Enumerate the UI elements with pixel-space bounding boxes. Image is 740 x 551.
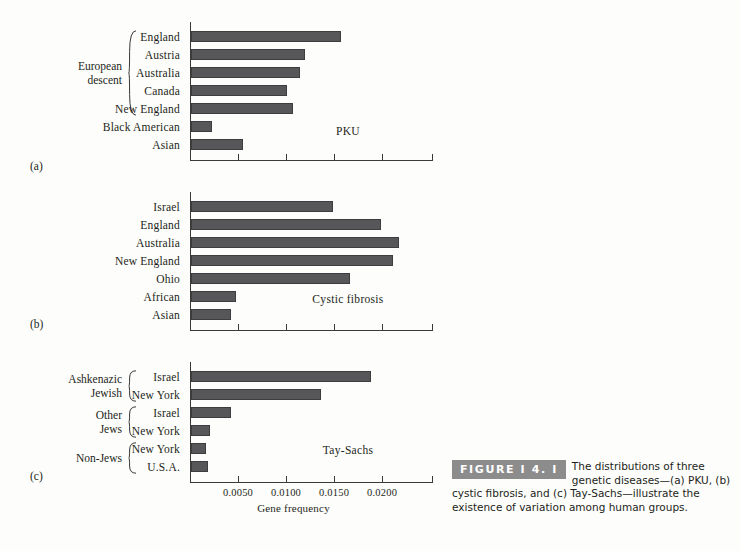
- bar: [191, 237, 399, 248]
- panel-letter: (a): [30, 160, 43, 172]
- bar-label: Black American: [0, 118, 185, 136]
- bar-row: Asian: [0, 136, 470, 154]
- bar: [191, 67, 300, 78]
- bar: [191, 139, 243, 150]
- figure-page: EnglandAustriaAustraliaCanadaNew England…: [0, 0, 740, 551]
- group-brace: [128, 406, 137, 438]
- x-axis-tick-0.0150: [334, 324, 335, 330]
- bar: [191, 371, 371, 382]
- bar-row: New England: [0, 100, 470, 118]
- bar-label: Australia: [0, 234, 185, 252]
- x-axis-tick-0.0200: [382, 324, 383, 330]
- disease-annotation: PKU: [336, 125, 360, 137]
- bar: [191, 31, 341, 42]
- panel-letter: (c): [30, 470, 43, 482]
- bar-row: Israel: [0, 198, 470, 216]
- bar-row: England: [0, 216, 470, 234]
- group-label: Ashkenazic Jewish: [10, 372, 122, 400]
- bar-row: African: [0, 288, 470, 306]
- group-brace: [128, 370, 137, 402]
- bar: [191, 291, 236, 302]
- bar-label: Ohio: [0, 270, 185, 288]
- group-label: Non-Jews: [10, 451, 122, 465]
- bar: [191, 443, 206, 454]
- x-axis-tick-0.0200: [382, 476, 383, 482]
- disease-annotation: Tay-Sachs: [323, 444, 373, 456]
- x-tick-label: 0.0200: [354, 487, 410, 498]
- group-brace: [128, 30, 137, 116]
- x-axis-tick-0.0100: [286, 476, 287, 482]
- bar: [191, 309, 231, 320]
- x-axis-tick-0.0050: [238, 154, 239, 160]
- bar-row: Asian: [0, 306, 470, 324]
- x-axis-line: [190, 330, 433, 331]
- bar-label: England: [0, 216, 185, 234]
- panel-letter: (b): [30, 318, 43, 330]
- chart-panel-c: IsraelNew YorkIsraelNew YorkNew YorkU.S.…: [0, 360, 470, 505]
- bar-row: England: [0, 28, 470, 46]
- bar-label: Asian: [0, 136, 185, 154]
- bar: [191, 255, 393, 266]
- chart-panel-b: IsraelEnglandAustraliaNew EnglandOhioAfr…: [0, 190, 470, 345]
- bar: [191, 273, 350, 284]
- bar-label: England: [0, 28, 185, 46]
- group-label: European descent: [10, 59, 122, 87]
- bar-row: Black American: [0, 118, 470, 136]
- bar-label: Israel: [0, 198, 185, 216]
- bar: [191, 121, 212, 132]
- x-axis-title: Gene frequency: [214, 502, 374, 514]
- bar: [191, 201, 333, 212]
- bar: [191, 407, 231, 418]
- bar-row: New England: [0, 252, 470, 270]
- figure-number-badge: FIGURE I 4. I: [452, 460, 566, 479]
- disease-annotation: Cystic fibrosis: [312, 293, 383, 305]
- bar-row: Australia: [0, 234, 470, 252]
- figure-caption: FIGURE I 4. I The distributions of three…: [452, 460, 732, 514]
- x-axis-tick-end: [432, 324, 433, 330]
- bar: [191, 85, 287, 96]
- bar-label: Asian: [0, 306, 185, 324]
- bar-label: African: [0, 288, 185, 306]
- x-axis-tick-0.0100: [286, 324, 287, 330]
- x-axis-tick-end: [432, 154, 433, 160]
- bar: [191, 461, 208, 472]
- x-axis-line: [190, 482, 433, 483]
- x-axis-tick-0.0200: [382, 154, 383, 160]
- bar: [191, 389, 321, 400]
- bar-row: Ohio: [0, 270, 470, 288]
- x-axis-tick-0.0050: [238, 476, 239, 482]
- group-brace: [128, 442, 137, 474]
- x-axis-tick-end: [432, 476, 433, 482]
- group-label: Other Jews: [10, 408, 122, 436]
- chart-panel-a: EnglandAustriaAustraliaCanadaNew England…: [0, 20, 470, 185]
- bar: [191, 219, 381, 230]
- bar: [191, 103, 293, 114]
- x-axis-tick-0.0150: [334, 476, 335, 482]
- bar: [191, 425, 210, 436]
- x-axis-tick-0.0150: [334, 154, 335, 160]
- bar: [191, 49, 305, 60]
- bar-label: New England: [0, 100, 185, 118]
- x-axis-line: [190, 160, 433, 161]
- x-axis-tick-0.0100: [286, 154, 287, 160]
- bar-label: New England: [0, 252, 185, 270]
- x-axis-tick-0.0050: [238, 324, 239, 330]
